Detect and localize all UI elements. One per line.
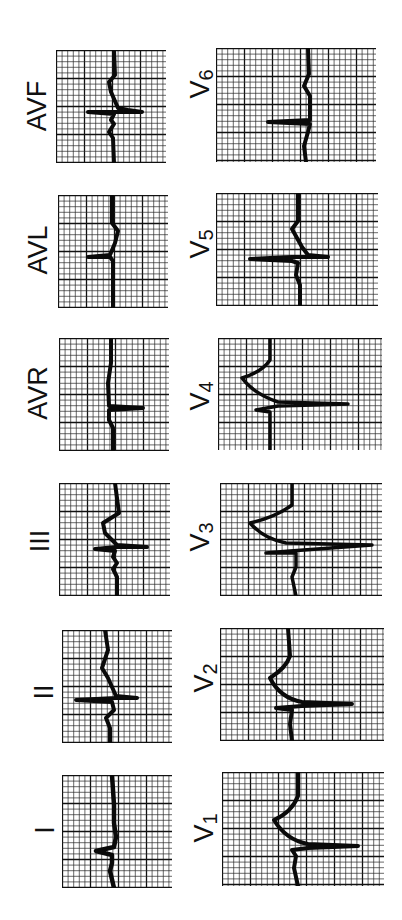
lead-label-avl: AVL (25, 225, 52, 274)
lead-label-subscript: 3 (195, 522, 217, 533)
lead-label-v2: V2 (191, 663, 220, 692)
ecg-grid-and-trace (220, 628, 384, 741)
ecg-lead-panel-ii (62, 630, 172, 743)
ecg-grid-and-trace (222, 772, 384, 886)
lead-label-main: AVL (23, 225, 53, 274)
lead-label-v5: V5 (187, 229, 216, 258)
lead-label-main: AVF (22, 81, 52, 132)
lead-label-main: V (189, 825, 219, 843)
ecg-lead-panel-v3 (220, 483, 382, 596)
ecg-lead-panel-v4 (218, 338, 382, 450)
ecg-grid-and-trace (62, 630, 172, 743)
lead-label-avf: AVF (24, 81, 51, 132)
ecg-grid-and-trace (59, 483, 170, 596)
ecg-grid-and-trace (62, 775, 172, 888)
ecg-grid-and-trace (59, 338, 169, 451)
lead-label-main: I (30, 826, 60, 834)
ecg-lead-panel-avr (59, 338, 169, 451)
lead-label-v3: V3 (187, 522, 216, 551)
ecg-grid-and-trace (220, 483, 382, 596)
lead-label-main: V (189, 675, 219, 693)
lead-label-ii: II (31, 684, 58, 699)
lead-label-subscript: 1 (199, 813, 221, 824)
ecg-lead-panel-avl (58, 195, 168, 308)
ecg-lead-panel-v6 (216, 48, 376, 162)
lead-label-v4: V4 (187, 381, 216, 410)
lead-label-v1: V1 (191, 813, 220, 842)
lead-label-main: III (25, 530, 55, 553)
ecg-lead-panel-i (62, 775, 172, 888)
lead-label-main: V (185, 534, 215, 552)
lead-label-main: V (185, 241, 215, 259)
ecg-grid-and-trace (56, 50, 166, 163)
lead-label-v6: V6 (187, 69, 216, 98)
ecg-grid-and-trace (216, 193, 378, 306)
lead-label-main: V (185, 393, 215, 411)
lead-label-main: II (29, 684, 59, 699)
lead-label-i: I (32, 826, 59, 834)
ecg-lead-panel-v2 (220, 628, 384, 741)
lead-label-iii: III (27, 530, 54, 553)
lead-label-subscript: 5 (195, 229, 217, 240)
ecg-grid-and-trace (218, 338, 382, 450)
ecg-lead-panel-v5 (216, 193, 378, 306)
lead-label-main: V (185, 81, 215, 99)
ecg-grid-and-trace (216, 48, 376, 162)
ecg-lead-panel-iii (59, 483, 170, 596)
lead-label-avr: AVR (25, 366, 52, 420)
ecg-lead-panel-v1 (222, 772, 384, 886)
lead-label-main: AVR (23, 366, 53, 420)
lead-label-subscript: 6 (195, 69, 217, 80)
ecg-grid-and-trace (58, 195, 168, 308)
lead-label-subscript: 2 (199, 663, 221, 674)
lead-label-subscript: 4 (195, 381, 217, 392)
ecg-lead-panel-avf (56, 50, 166, 163)
